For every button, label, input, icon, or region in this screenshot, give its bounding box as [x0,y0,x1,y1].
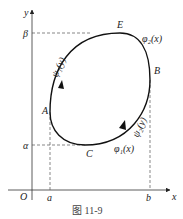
tick-a: a [47,192,52,203]
label-phi1: φ₁(x) [114,143,135,155]
point-C: C [86,148,93,159]
tick-beta: β [22,28,28,39]
x-axis-label: x [171,191,177,202]
origin-label: O [20,191,27,202]
point-B: B [154,65,160,76]
point-A: A [41,105,49,116]
y-axis-label: y [23,7,29,18]
arrow-left-icon [58,80,64,89]
figure-diagram: y x O β α a b E B A C φ₂(x) φ₁(x) ψ₁(y) … [0,0,183,219]
label-psi2: ψ₂(y) [130,115,150,140]
point-E: E [116,19,123,30]
tick-alpha: α [23,140,29,151]
label-phi2: φ₂(x) [142,33,163,45]
figure-caption: 图 11-9 [72,205,102,216]
tick-b: b [146,192,151,203]
arrow-right-icon [119,120,126,130]
